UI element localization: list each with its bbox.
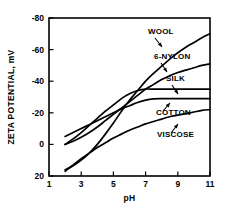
- x-tick-label: 3: [79, 179, 84, 189]
- series-label-6-nylon: 6-NYLON: [154, 52, 191, 61]
- y-axis-title: ZETA POTENTIAL, mV: [6, 49, 16, 144]
- y-tick-label: -60: [32, 45, 45, 55]
- series-label-silk: SILK: [166, 74, 185, 83]
- y-tick-label: -20: [32, 108, 45, 118]
- x-tick-label: 11: [206, 179, 215, 189]
- plot-frame: [49, 18, 210, 176]
- series-label-cotton: COTTON: [156, 108, 191, 117]
- x-axis-title: pH: [124, 193, 136, 203]
- x-tick-label: 5: [111, 179, 116, 189]
- series-label-wool: WOOL: [148, 27, 174, 36]
- chart-canvas: -80-60-40-200201357911pHZETA POTENTIAL, …: [0, 0, 225, 209]
- x-tick-label: 7: [143, 179, 148, 189]
- zeta-potential-chart-figure: -80-60-40-200201357911pHZETA POTENTIAL, …: [0, 0, 225, 209]
- x-tick-label: 1: [47, 179, 52, 189]
- y-tick-label: -80: [32, 13, 45, 23]
- y-tick-label: 0: [39, 139, 44, 149]
- x-tick-label: 9: [175, 179, 180, 189]
- curve-viscose: [65, 110, 210, 172]
- y-tick-label: -40: [32, 76, 45, 86]
- y-tick-label: 20: [35, 171, 45, 181]
- series-label-viscose: VISCOSE: [157, 130, 194, 139]
